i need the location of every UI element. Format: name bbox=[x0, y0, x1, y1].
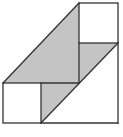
bottom-left-square bbox=[3, 83, 41, 123]
geometry-diagram bbox=[0, 0, 123, 137]
top-right-square bbox=[79, 3, 118, 43]
